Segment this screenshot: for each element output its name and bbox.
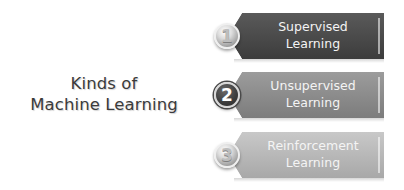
- diagram-title: Kinds of Machine Learning: [18, 73, 190, 115]
- number-badge-icon: 3: [214, 142, 240, 168]
- badge-number: 1: [221, 26, 233, 46]
- banner-edge-highlight: [378, 137, 380, 173]
- banner-edge-highlight: [378, 18, 380, 54]
- banner-label: Unsupervised Learning: [254, 77, 372, 111]
- banner-shadow: [234, 118, 384, 122]
- label-line-1: Unsupervised: [254, 77, 372, 94]
- banner-unsupervised: Unsupervised Learning: [228, 72, 384, 118]
- banner-edge-highlight: [378, 77, 380, 113]
- number-badge-icon: 2: [214, 82, 240, 108]
- badge-number: 2: [221, 85, 233, 105]
- banner-shadow: [234, 59, 384, 63]
- ml-kind-item-reinforcement: Reinforcement Learning 3: [212, 132, 388, 180]
- label-line-2: Learning: [254, 35, 372, 52]
- title-line-2: Machine Learning: [18, 94, 190, 115]
- banner-shadow: [234, 178, 384, 182]
- ml-kind-item-unsupervised: Unsupervised Learning 2: [212, 72, 388, 120]
- banner-reinforcement: Reinforcement Learning: [228, 132, 384, 178]
- label-line-1: Supervised: [254, 18, 372, 35]
- banner-supervised: Supervised Learning: [228, 13, 384, 59]
- label-line-2: Learning: [254, 154, 372, 171]
- banner-label: Supervised Learning: [254, 18, 372, 52]
- label-line-1: Reinforcement: [254, 137, 372, 154]
- ml-kind-item-supervised: Supervised Learning 1: [212, 13, 388, 61]
- number-badge-icon: 1: [214, 23, 240, 49]
- title-line-1: Kinds of: [18, 73, 190, 94]
- label-line-2: Learning: [254, 94, 372, 111]
- badge-number: 3: [221, 145, 233, 165]
- banner-label: Reinforcement Learning: [254, 137, 372, 171]
